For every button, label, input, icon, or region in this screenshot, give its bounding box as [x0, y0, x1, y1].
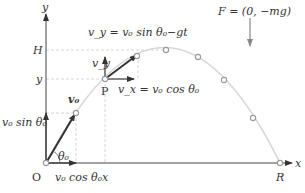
theta0-label: θ₀: [58, 151, 69, 162]
v0-label: v₀: [68, 94, 79, 105]
v0-sin-label: v₀ sin θ₀: [2, 117, 47, 128]
origin-label: O: [32, 172, 41, 183]
y-axis-label: y: [42, 2, 48, 13]
v0-cos-label: v₀ cos θ₀: [55, 172, 102, 183]
vx-equation: v_x = v₀ cos θ₀: [118, 84, 199, 95]
x-axis-label: x: [295, 158, 301, 169]
x-level-label: x: [102, 172, 108, 183]
y-level-label: y: [36, 74, 42, 85]
range-label: R: [276, 172, 284, 183]
vy-label: v_y: [92, 58, 110, 69]
force-equation: F = (0, −mg): [218, 6, 291, 17]
point-p-label: P: [101, 86, 108, 97]
projectile-diagram: y x O H y x R P v₀ θ₀ v₀ sin θ₀ v₀ cos θ…: [0, 0, 305, 193]
vy-equation: v_y = v₀ sin θ₀−gt: [88, 27, 188, 38]
max-height-label: H: [33, 45, 43, 56]
trajectory-curve: [46, 48, 280, 164]
